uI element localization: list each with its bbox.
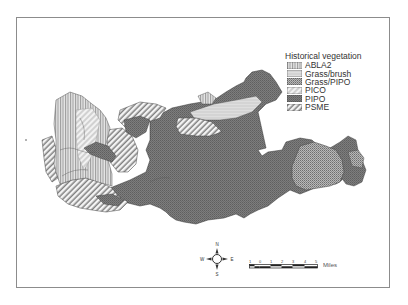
region-psme-southwest (56, 178, 128, 212)
swatch-grass-pipo-icon (287, 78, 302, 85)
scale-unit: Miles (323, 262, 337, 268)
swatch-psme-icon (287, 104, 302, 111)
legend-item-pipo: PIPO (287, 95, 390, 103)
swatch-grass-brush-icon (287, 70, 302, 77)
scale-bar-graphic (249, 264, 319, 269)
legend-title: Historical vegetation (285, 51, 390, 61)
stray-mark (25, 139, 27, 141)
region-psme-west-edge (42, 136, 58, 182)
compass-w: W (200, 257, 205, 262)
swatch-pico-icon (287, 87, 302, 94)
compass-e: E (230, 257, 233, 262)
legend-label: ABLA2 (305, 61, 331, 69)
legend-item-psme: PSME (287, 103, 390, 111)
legend-item-grass-pipo: Grass/PIPO (287, 78, 390, 86)
north-arrow-compass-icon: N S W E (197, 239, 237, 279)
legend: Historical vegetation ABLA2 Grass/brush … (285, 51, 390, 111)
legend-label: PSME (305, 103, 329, 111)
swatch-abla2-icon (287, 62, 302, 69)
swatch-pipo-icon (287, 95, 302, 102)
compass-s: S (215, 272, 218, 277)
compass-n: N (215, 242, 218, 247)
legend-item-pico: PICO (287, 86, 390, 94)
